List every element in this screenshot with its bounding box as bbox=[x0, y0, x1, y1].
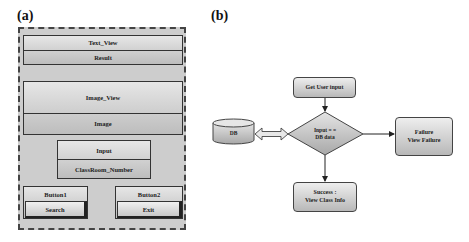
decision-line1: Input = = bbox=[314, 127, 336, 134]
failure-line2: View Failure bbox=[408, 137, 441, 145]
get-user-input-node: Get User input bbox=[293, 77, 356, 98]
db-label: DB bbox=[230, 130, 238, 137]
bidirectional-arrow-icon bbox=[255, 128, 288, 140]
success-line1: Success : bbox=[314, 189, 337, 197]
success-node: Success : View Class Info bbox=[293, 182, 357, 212]
failure-line1: Failure bbox=[415, 129, 434, 137]
decision-node: Input = = DB data bbox=[295, 124, 355, 144]
decision-line2: DB data bbox=[315, 134, 334, 141]
get-user-input-label: Get User input bbox=[306, 84, 344, 92]
db-node: DB bbox=[213, 125, 254, 142]
success-line2: View Class Info bbox=[305, 197, 345, 205]
failure-node: Failure View Failure bbox=[395, 117, 453, 156]
